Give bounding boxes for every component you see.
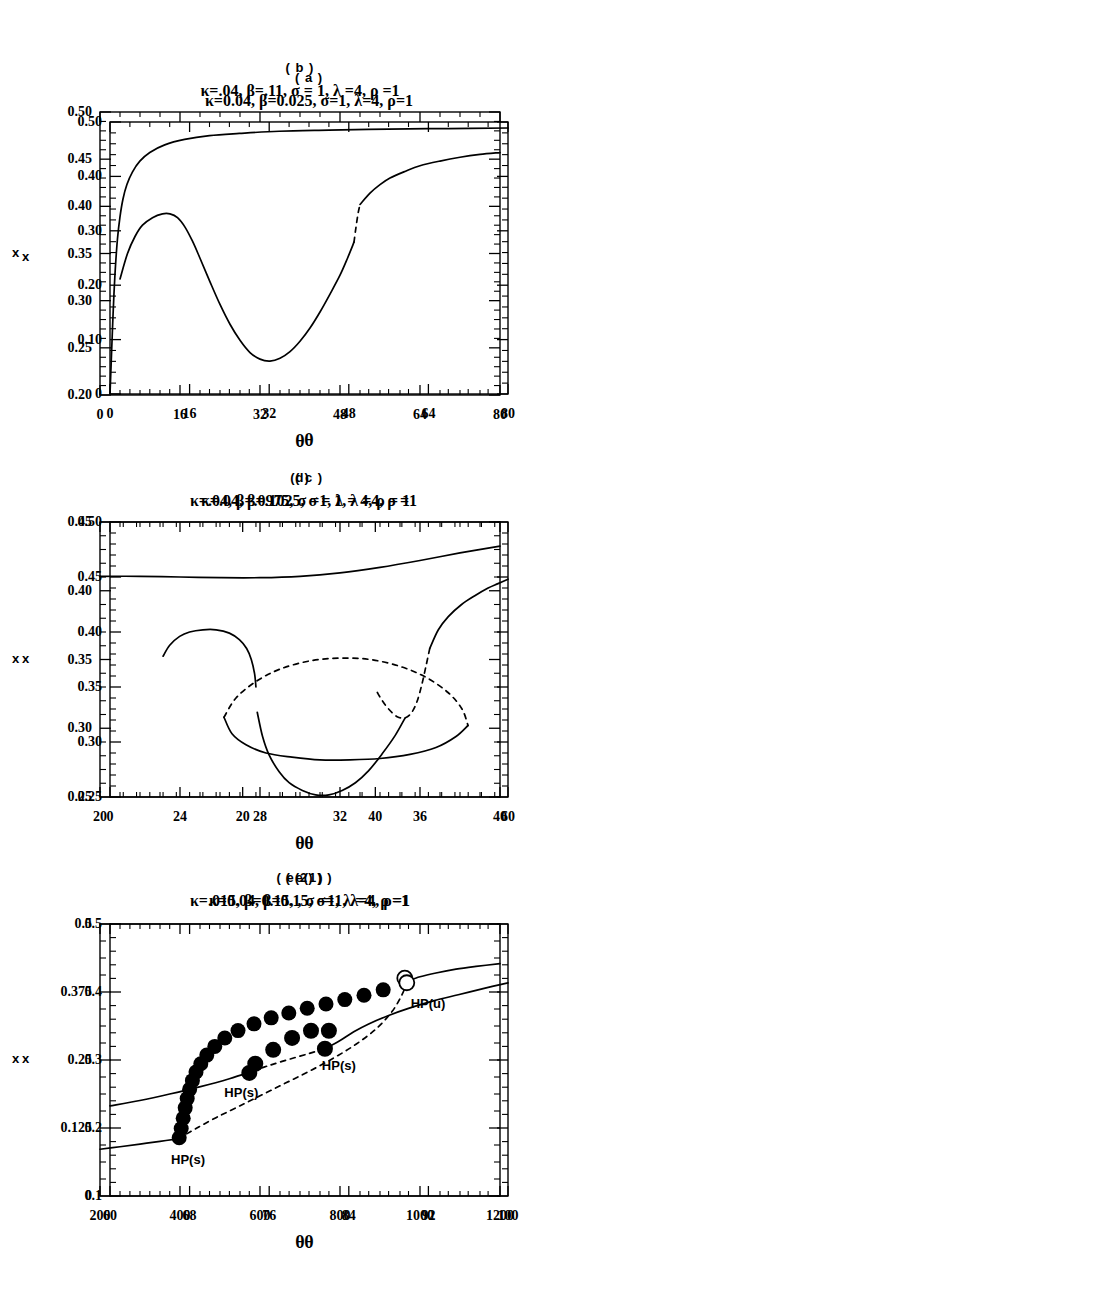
x-axis-label-e2: θ: [100, 1232, 500, 1253]
x-tick-label: 76: [262, 1208, 276, 1224]
x-tick-label: 32: [333, 809, 347, 825]
x-tick-label: 92: [421, 1208, 435, 1224]
y-tick-label: 0.25: [32, 789, 102, 805]
y-tick-label: 0.25: [22, 340, 92, 356]
x-tick-label: 64: [421, 406, 435, 422]
y-tick-label: 0.30: [22, 293, 92, 309]
annotation-label: HP(s): [224, 1084, 258, 1099]
data-point-filled: [176, 1111, 191, 1126]
panel-a: ( a )κ=0.04, β=0.025, σ=1, λ=4, ρ=1xθ00.…: [0, 0, 1099, 1301]
x-tick-label: 60: [103, 1208, 117, 1224]
plot-canvas-e1: [0, 0, 1099, 1301]
data-point-open: [399, 975, 414, 990]
data-point-filled: [247, 1056, 263, 1072]
data-point-filled: [321, 1023, 337, 1039]
data-point-filled: [180, 1091, 195, 1106]
x-tick-label: 0: [107, 406, 114, 422]
series-path: [178, 981, 407, 1139]
series-path: [360, 153, 500, 205]
x-tick-label: 68: [183, 1208, 197, 1224]
series-path: [257, 712, 405, 795]
data-point-filled: [199, 1048, 214, 1063]
series-path: [407, 964, 500, 981]
annotation-label: HP(u): [411, 995, 446, 1010]
y-tick-label: 0.30: [32, 734, 102, 750]
y-axis-label-e1: x: [22, 1051, 29, 1066]
x-tick-label: 16: [173, 407, 187, 423]
x-tick-label: 40: [493, 809, 507, 825]
x-axis-label-c: θ: [110, 833, 508, 854]
y-tick-label: 0.40: [32, 168, 102, 184]
panel-d: (d)κ=.04, β=.0975, σ =1, λ = 4, ρ = 1xθ0…: [0, 0, 1099, 1301]
x-tick-label: 800: [330, 1208, 351, 1224]
series-path: [430, 579, 508, 648]
data-point-filled: [265, 1042, 281, 1058]
panel-title-c: κ=.04, β=.1025, σ = 1, λ =4, ρ =1: [20, 492, 598, 510]
y-tick-label: 0.2: [32, 1120, 102, 1136]
y-axis-label-d: x: [12, 651, 19, 666]
y-tick-label: 0: [32, 386, 102, 402]
series-path: [110, 1071, 252, 1106]
data-point-filled: [189, 1064, 204, 1079]
y-tick-label: 0.50: [32, 114, 102, 130]
y-axis-label-e2: x: [12, 1051, 19, 1066]
y-tick-label: 0.35: [32, 679, 102, 695]
figure-page: ( a )κ=0.04, β=0.025, σ=1, λ=4, ρ=1xθ00.…: [0, 0, 1099, 1301]
y-tick-label: 0.45: [22, 514, 92, 530]
y-tick-label: 0.40: [32, 624, 102, 640]
x-tick-label: 1200: [486, 1208, 514, 1224]
data-point-filled: [241, 1065, 257, 1081]
series-path: [100, 1139, 178, 1149]
annotation-label: HP(s): [322, 1057, 356, 1072]
series-path: [110, 128, 508, 394]
panel-e2: ( e(2) )κ=.015, β=0.15, , σ =1, λ =4, ρ …: [0, 0, 1099, 1301]
panel-title-a: κ=0.04, β=0.025, σ=1, λ=4, ρ=1: [20, 92, 598, 110]
y-tick-label: 0.30: [22, 720, 92, 736]
panel-letter-c: ( c ): [50, 470, 568, 485]
x-tick-label: 100: [498, 1208, 519, 1224]
panel-title-e1: κ=0.04, β=0.15, σ=1, λ=4, ρ=1: [20, 892, 598, 910]
y-tick-label: 0.1: [32, 1188, 102, 1204]
x-axis-label-a: θ: [110, 430, 508, 451]
y-tick-label: 0.3: [32, 1052, 102, 1068]
panel-letter-b: ( b ): [40, 60, 560, 75]
x-tick-label: 0: [107, 809, 114, 825]
x-tick-label: 20: [93, 809, 107, 825]
y-tick-label: 0.25: [22, 789, 92, 805]
x-tick-label: 200: [90, 1208, 111, 1224]
y-tick-label: 0.375: [22, 984, 92, 1000]
series-path: [100, 546, 500, 578]
y-tick-label: 0.20: [32, 277, 102, 293]
x-tick-label: 60: [501, 809, 515, 825]
x-tick-label: 28: [253, 809, 267, 825]
x-tick-label: 48: [333, 407, 347, 423]
panel-c: ( c )κ=.04, β=.1025, σ = 1, λ =4, ρ =1xθ…: [0, 0, 1099, 1301]
series-path: [252, 1049, 324, 1071]
y-axis-label-b: x: [12, 245, 19, 260]
data-point-filled: [337, 992, 352, 1007]
x-tick-label: 40: [368, 809, 382, 825]
data-point-filled: [303, 1023, 319, 1039]
y-tick-label: 0.50: [22, 104, 92, 120]
y-tick-label: 0.30: [32, 223, 102, 239]
plot-canvas-b: [0, 0, 1099, 1301]
panel-e1: ( e(1) )κ=0.04, β=0.15, σ=1, λ=4, ρ=1xθ0…: [0, 0, 1099, 1301]
panel-title-b: κ=.04, β=.11, σ = 1, λ =4, ρ =1: [10, 82, 590, 100]
x-tick-label: 80: [501, 406, 515, 422]
data-point-filled: [182, 1082, 197, 1097]
y-axis-label-c: x: [22, 651, 29, 666]
data-point-filled: [172, 1130, 187, 1145]
data-point-filled: [284, 1030, 300, 1046]
data-point-filled: [317, 1041, 333, 1057]
series-path: [377, 649, 429, 719]
x-tick-label: 84: [342, 1208, 356, 1224]
data-point-open: [397, 971, 412, 986]
data-point-filled: [357, 988, 372, 1003]
data-point-filled: [185, 1073, 200, 1088]
series-path: [224, 717, 468, 760]
x-tick-label: 1000: [406, 1208, 434, 1224]
series-path: [163, 629, 256, 687]
x-tick-label: 48: [342, 406, 356, 422]
y-tick-label: 0.4: [32, 984, 102, 1000]
y-tick-label: 0.35: [22, 652, 92, 668]
